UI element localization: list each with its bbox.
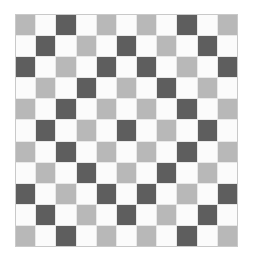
grid-cell-dark-gray-r3c1 (16, 57, 35, 77)
grid-cell-dark-gray-r7c3 (56, 142, 75, 162)
checkerboard-figure (0, 0, 253, 266)
grid-cell-white-r10c5 (97, 205, 116, 225)
grid-cell-light-gray-r1c1 (16, 15, 35, 35)
grid-cell-light-gray-r2c8 (157, 36, 176, 56)
grid-cell-dark-gray-r5c9 (177, 99, 196, 119)
grid-cell-white-r10c1 (16, 205, 35, 225)
grid-cell-light-gray-r3c3 (56, 57, 75, 77)
checkerboard-grid (16, 15, 237, 246)
grid-cell-dark-gray-r10c2 (36, 205, 55, 225)
grid-cell-white-r7c6 (117, 142, 136, 162)
grid-cell-light-gray-r2c4 (77, 36, 96, 56)
grid-cell-white-r7c4 (77, 142, 96, 162)
grid-cell-dark-gray-r4c4 (77, 78, 96, 98)
grid-cell-white-r8c3 (56, 163, 75, 183)
grid-cell-white-r2c3 (56, 36, 75, 56)
grid-cell-white-r11c8 (157, 226, 176, 246)
grid-cell-white-r7c10 (198, 142, 217, 162)
grid-cell-light-gray-r6c4 (77, 120, 96, 140)
grid-cell-light-gray-r1c11 (218, 15, 237, 35)
grid-cell-white-r5c4 (77, 99, 96, 119)
grid-cell-dark-gray-r1c9 (177, 15, 196, 35)
grid-cell-white-r11c10 (198, 226, 217, 246)
grid-cell-dark-gray-r9c7 (137, 184, 156, 204)
grid-cell-white-r5c8 (157, 99, 176, 119)
grid-cell-white-r7c2 (36, 142, 55, 162)
grid-cell-white-r11c2 (36, 226, 55, 246)
grid-cell-white-r1c6 (117, 15, 136, 35)
grid-cell-white-r1c10 (198, 15, 217, 35)
grid-cell-dark-gray-r2c2 (36, 36, 55, 56)
grid-cell-white-r4c11 (218, 78, 237, 98)
grid-cell-light-gray-r11c5 (97, 226, 116, 246)
grid-cell-dark-gray-r9c5 (97, 184, 116, 204)
grid-cell-white-r8c11 (218, 163, 237, 183)
grid-cell-light-gray-r10c8 (157, 205, 176, 225)
grid-cell-white-r1c4 (77, 15, 96, 35)
grid-cell-light-gray-r8c6 (117, 163, 136, 183)
grid-cell-dark-gray-r5c3 (56, 99, 75, 119)
grid-cell-light-gray-r8c2 (36, 163, 55, 183)
grid-cell-dark-gray-r3c7 (137, 57, 156, 77)
grid-cell-light-gray-r9c9 (177, 184, 196, 204)
grid-cell-white-r2c11 (218, 36, 237, 56)
grid-cell-light-gray-r8c10 (198, 163, 217, 183)
grid-cell-light-gray-r4c2 (36, 78, 55, 98)
grid-cell-white-r4c7 (137, 78, 156, 98)
grid-cell-light-gray-r6c8 (157, 120, 176, 140)
grid-cell-dark-gray-r11c3 (56, 226, 75, 246)
grid-cell-light-gray-r5c1 (16, 99, 35, 119)
grid-cell-white-r3c8 (157, 57, 176, 77)
grid-cell-light-gray-r7c1 (16, 142, 35, 162)
grid-cell-light-gray-r1c7 (137, 15, 156, 35)
grid-cell-dark-gray-r8c8 (157, 163, 176, 183)
grid-cell-white-r1c2 (36, 15, 55, 35)
grid-cell-dark-gray-r10c6 (117, 205, 136, 225)
grid-cell-white-r5c10 (198, 99, 217, 119)
grid-cell-white-r10c7 (137, 205, 156, 225)
grid-cell-light-gray-r5c11 (218, 99, 237, 119)
grid-cell-white-r10c3 (56, 205, 75, 225)
grid-cell-light-gray-r9c3 (56, 184, 75, 204)
grid-cell-white-r4c5 (97, 78, 116, 98)
grid-cell-white-r5c6 (117, 99, 136, 119)
grid-cell-white-r9c2 (36, 184, 55, 204)
grid-cell-white-r8c1 (16, 163, 35, 183)
grid-cell-light-gray-r10c4 (77, 205, 96, 225)
grid-cell-light-gray-r1c5 (97, 15, 116, 35)
grid-cell-white-r4c9 (177, 78, 196, 98)
grid-cell-light-gray-r5c5 (97, 99, 116, 119)
grid-cell-dark-gray-r11c9 (177, 226, 196, 246)
grid-cell-white-r8c7 (137, 163, 156, 183)
grid-cell-dark-gray-r6c2 (36, 120, 55, 140)
grid-cell-light-gray-r7c5 (97, 142, 116, 162)
grid-cell-white-r10c11 (218, 205, 237, 225)
grid-cell-white-r1c8 (157, 15, 176, 35)
grid-cell-dark-gray-r10c10 (198, 205, 217, 225)
grid-cell-white-r6c9 (177, 120, 196, 140)
grid-cell-white-r9c4 (77, 184, 96, 204)
grid-cell-light-gray-r5c7 (137, 99, 156, 119)
grid-cell-white-r6c3 (56, 120, 75, 140)
grid-cell-white-r2c5 (97, 36, 116, 56)
grid-cell-white-r4c1 (16, 78, 35, 98)
grid-cell-light-gray-r7c7 (137, 142, 156, 162)
grid-cell-white-r8c5 (97, 163, 116, 183)
grid-cell-dark-gray-r6c6 (117, 120, 136, 140)
grid-cell-light-gray-r4c6 (117, 78, 136, 98)
grid-cell-light-gray-r3c9 (177, 57, 196, 77)
grid-cell-white-r9c10 (198, 184, 217, 204)
grid-cell-white-r2c1 (16, 36, 35, 56)
grid-cell-white-r3c4 (77, 57, 96, 77)
grid-cell-dark-gray-r9c11 (218, 184, 237, 204)
grid-cell-dark-gray-r2c6 (117, 36, 136, 56)
grid-cell-light-gray-r7c11 (218, 142, 237, 162)
grid-cell-white-r9c6 (117, 184, 136, 204)
grid-cell-white-r8c9 (177, 163, 196, 183)
grid-cell-white-r11c4 (77, 226, 96, 246)
grid-cell-dark-gray-r9c1 (16, 184, 35, 204)
grid-cell-dark-gray-r3c5 (97, 57, 116, 77)
grid-cell-dark-gray-r2c10 (198, 36, 217, 56)
grid-cell-white-r10c9 (177, 205, 196, 225)
grid-frame (15, 14, 238, 247)
